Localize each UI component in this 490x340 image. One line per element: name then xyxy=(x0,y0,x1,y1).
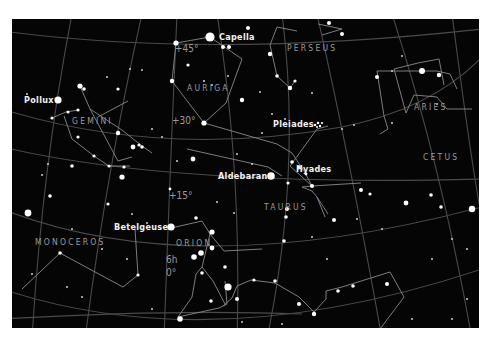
constellation-label-taurus: TAURUS xyxy=(264,203,308,212)
star-label-pollux: Pollux xyxy=(24,96,54,105)
constellation-label-auriga: AURIGA xyxy=(187,84,230,93)
constellation-label-perseus: PERSEUS xyxy=(287,44,337,53)
constellation-label-monoceros: MONOCEROS xyxy=(35,238,106,247)
constellation-label-cetus: CETUS xyxy=(423,153,459,162)
grid-label-dec-45: +45° xyxy=(175,44,198,54)
grid-label-dec-0: 0° xyxy=(166,268,176,278)
grid-label-dec-15: +15° xyxy=(169,191,192,201)
grid-label-dec-30: +30° xyxy=(172,116,195,126)
star-label-hyades: Hyades xyxy=(296,165,331,174)
star-label-pleiades: Pleiades xyxy=(273,120,314,129)
star-label-aldebaran: Aldebaran xyxy=(218,172,268,181)
constellation-label-aries: ARIES xyxy=(414,103,447,112)
grid-label-ra-6h: 6h xyxy=(166,255,177,265)
star-label-betelgeuse: Betelgeuse xyxy=(114,223,168,232)
constellation-label-orion: ORION xyxy=(176,239,212,248)
star-map: +45° +30° +15° 6h 0° PERSEUS AURIGA ARIE… xyxy=(12,19,479,328)
star-label-capella: Capella xyxy=(219,33,255,42)
constellation-label-gemini: GEMINI xyxy=(72,117,113,126)
pleiades-cluster-icon xyxy=(314,122,323,128)
